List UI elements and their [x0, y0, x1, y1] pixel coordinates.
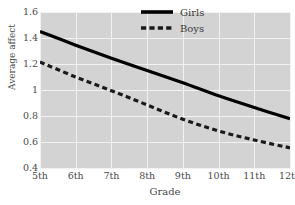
y-tick-label: 1.6 [12, 7, 38, 17]
series-line-boys [40, 62, 290, 148]
x-tick-label: 11th [243, 170, 265, 181]
legend-swatch-dashed-line-icon [140, 20, 174, 36]
gridline-vertical [290, 12, 291, 168]
y-tick-label: 1.2 [12, 59, 38, 69]
x-axis-tick-labels: 5th6th7th8th9th10th11th12th [40, 170, 290, 184]
legend-label-boys: Boys [174, 23, 204, 34]
y-tick-label: 1 [12, 85, 38, 95]
y-tick-label: 1.4 [12, 33, 38, 43]
chart-legend: Girls Boys [140, 4, 245, 36]
x-tick-label: 10th [208, 170, 230, 181]
legend-item-girls: Girls [140, 4, 245, 20]
x-tick-label: 7th [103, 170, 119, 181]
legend-swatch-solid-line-icon [140, 4, 174, 20]
legend-label-girls: Girls [174, 7, 204, 18]
chart-container: Average affect 0.40.60.811.21.41.6 Girls… [0, 0, 295, 205]
x-tick-label: 9th [175, 170, 191, 181]
legend-item-boys: Boys [140, 20, 245, 36]
x-tick-label: 8th [139, 170, 155, 181]
series-line-girls [40, 32, 290, 119]
y-axis-tick-labels: 0.40.60.811.21.41.6 [12, 12, 38, 168]
x-tick-label: 5th [32, 170, 48, 181]
y-tick-label: 0.8 [12, 111, 38, 121]
gridline-horizontal [40, 168, 290, 169]
x-tick-label: 12th [279, 170, 295, 181]
y-tick-label: 0.6 [12, 137, 38, 147]
x-tick-label: 6th [68, 170, 84, 181]
x-axis-title: Grade [40, 186, 290, 197]
